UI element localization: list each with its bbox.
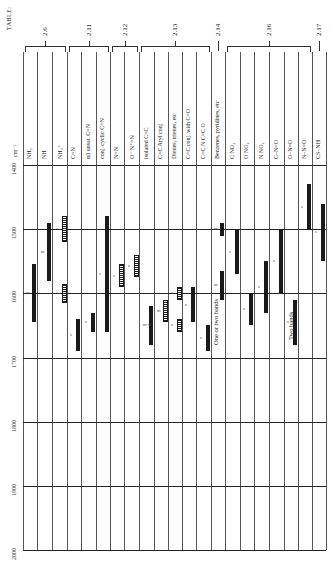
group-brace-tick	[269, 41, 270, 47]
y-tick-label: 1500	[11, 227, 17, 239]
absorption-band	[76, 319, 80, 351]
absorption-band	[91, 313, 95, 332]
intensity-label: s	[70, 332, 72, 337]
y-tick-label: 1700	[11, 356, 17, 368]
column-label: C=N	[70, 147, 76, 159]
y-tick-label: 1900	[11, 484, 17, 496]
group-label: 2.17	[315, 24, 323, 36]
column-label: O NO₂	[243, 142, 249, 159]
column-divider	[96, 52, 97, 550]
intensity-label: s	[273, 258, 275, 263]
absorption-band	[220, 271, 224, 300]
y-axis-unit: cm⁻¹	[11, 145, 18, 157]
y-tick-label: 1600	[11, 291, 17, 303]
column-divider	[124, 52, 125, 550]
column-label: isolated C=C	[143, 127, 149, 159]
absorption-band	[47, 223, 51, 281]
column-label: O–N=O	[287, 140, 293, 159]
absorption-band	[62, 284, 67, 303]
group-brace-tick	[319, 41, 320, 51]
table-label: TABLE:	[6, 6, 12, 30]
y-tick-label: 1400	[11, 163, 17, 175]
group-brace-tick	[125, 41, 126, 47]
y-tick-label: 2000	[11, 548, 17, 560]
absorption-band	[206, 325, 210, 351]
grid-line	[23, 358, 326, 359]
absorption-band	[105, 216, 109, 332]
intensity-label: s	[171, 322, 173, 327]
group-label: 2.6	[41, 27, 49, 36]
intensity-label: s	[200, 335, 202, 340]
grid-line	[23, 550, 326, 551]
grid-line	[23, 293, 326, 294]
column-label: C=C N C=C O	[200, 123, 206, 159]
intensity-label: s	[185, 302, 187, 307]
intensity-label: s	[128, 263, 130, 268]
intensity-label: s	[243, 306, 245, 311]
column-label: NH₃⁺	[56, 145, 63, 159]
absorption-band	[134, 255, 139, 277]
column-divider	[139, 52, 140, 550]
intensity-label: s	[229, 249, 231, 254]
intensity-label: m	[41, 249, 45, 254]
absorption-band	[163, 300, 168, 322]
intensity-label: s	[113, 273, 115, 278]
column-divider	[312, 52, 313, 550]
absorption-band	[191, 287, 195, 322]
intensity-label: s	[85, 319, 87, 324]
absorption-band	[119, 264, 124, 286]
absorption-band	[177, 319, 182, 332]
column-divider	[225, 52, 226, 550]
intensity-label: s	[56, 226, 58, 231]
group-brace-tick	[45, 41, 46, 47]
intensity-label: s	[258, 284, 260, 289]
column-label: conj. cyclic C=N	[99, 118, 105, 159]
grid-line	[23, 165, 326, 166]
intensity-label: s	[315, 229, 317, 234]
column-label: NH₂	[26, 148, 32, 159]
column-divider	[240, 52, 241, 550]
intensity-label: m	[157, 308, 161, 313]
grid-line	[23, 486, 326, 487]
column-divider	[81, 52, 82, 550]
intensity-label: s	[171, 290, 173, 295]
column-label: N–N=O	[301, 140, 307, 159]
annotation-one-or-two-bands: One or two bands	[212, 299, 219, 345]
column-label: C–N=O	[273, 140, 279, 159]
column-divider	[110, 52, 111, 550]
column-divider	[37, 52, 38, 550]
column-divider	[326, 52, 327, 550]
column-label: NH	[41, 150, 47, 159]
column-divider	[67, 52, 68, 550]
group-brace-tick	[218, 41, 219, 51]
column-label: C=C Aryl conj	[157, 124, 163, 159]
group-label: 2.14	[214, 24, 222, 36]
column-label: N NO₂	[258, 142, 264, 159]
column-divider	[196, 52, 197, 550]
column-label: αβ unsat. C=N	[85, 124, 91, 159]
column-label: Dienes, trienes, etc	[171, 113, 177, 159]
column-divider	[284, 52, 285, 550]
column-label: Benzenes, pyridines, etc	[214, 101, 220, 159]
absorption-band	[264, 261, 268, 312]
column-divider	[269, 52, 270, 550]
annotation-two-bands: Two bands	[287, 312, 294, 340]
intensity-label: s	[99, 271, 101, 276]
group-label: 2.11	[85, 24, 93, 36]
intensity-label: m-w	[143, 322, 151, 327]
column-divider	[23, 52, 24, 550]
intensity-label: m	[26, 290, 30, 295]
intensity-label: m	[214, 226, 218, 231]
intensity-label: s	[301, 204, 303, 209]
column-label: C=C conj. with C=O	[185, 109, 191, 159]
column-divider	[154, 52, 155, 550]
column-divider	[182, 52, 183, 550]
y-tick-label: 1800	[11, 420, 17, 432]
column-divider	[168, 52, 169, 550]
absorption-band	[249, 293, 253, 325]
absorption-band	[62, 216, 67, 242]
grid-line	[23, 422, 326, 423]
absorption-band	[235, 229, 239, 274]
absorption-band	[279, 229, 283, 293]
group-label: 2.16	[265, 24, 273, 36]
